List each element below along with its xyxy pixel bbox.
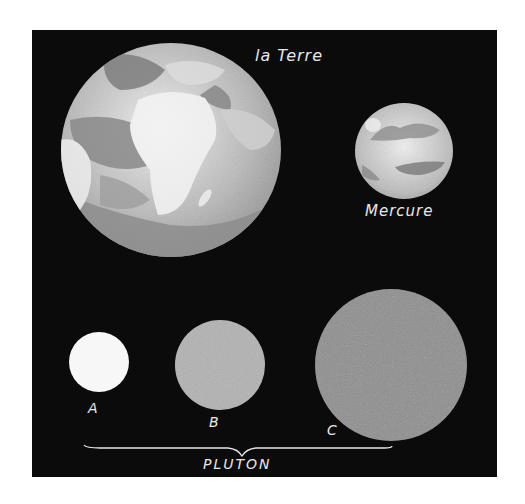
- figure-drawing: [0, 0, 525, 504]
- pluton-brace: [84, 445, 392, 456]
- earth-globe: [60, 43, 281, 260]
- earth-label: la Terre: [255, 46, 323, 65]
- pluton-label: PLUTON: [203, 456, 272, 472]
- mercury-label: Mercure: [365, 202, 434, 220]
- pluto-c-label: C: [327, 422, 338, 438]
- pluto-b-label: B: [209, 414, 220, 430]
- pluto-b-disc: [175, 320, 265, 410]
- mercury-globe: [355, 103, 453, 199]
- pluto-c-disc: [315, 289, 467, 441]
- pluto-a-label: A: [88, 400, 99, 416]
- pluto-a-disc: [69, 332, 129, 392]
